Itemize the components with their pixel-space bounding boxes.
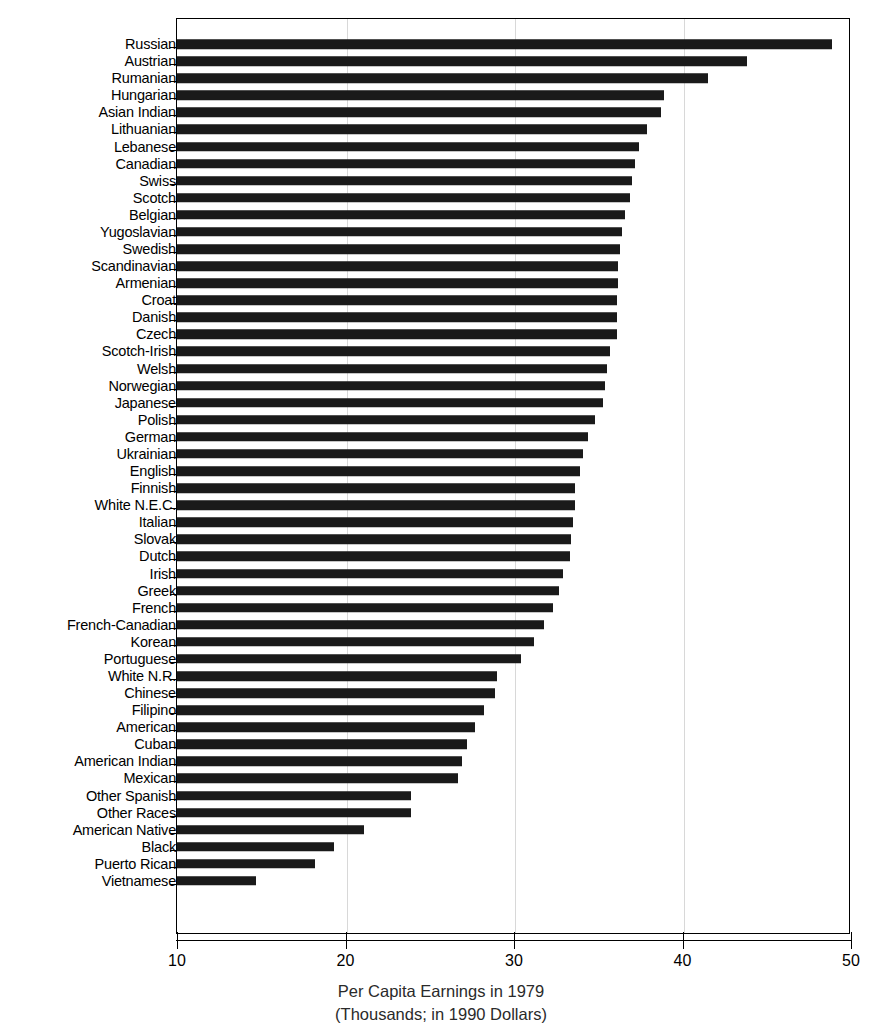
bar-row: English [0, 463, 882, 480]
bar-row-label: Scandinavian [91, 259, 176, 274]
bar-row-tick [170, 474, 177, 475]
bar-row-tick [170, 594, 177, 595]
bar-row: American [0, 719, 882, 736]
bar-row-tick [170, 201, 177, 202]
bar [177, 108, 661, 118]
bar [177, 774, 458, 784]
bar-row: Asian Indian [0, 104, 882, 121]
bar [177, 688, 495, 698]
x-tick [177, 940, 178, 949]
bar [177, 740, 467, 750]
bar-row-tick [170, 508, 177, 509]
bar [177, 603, 553, 613]
bar-row-tick [170, 389, 177, 390]
bar-row: Dutch [0, 548, 882, 565]
bar-row: Black [0, 838, 882, 855]
bar-row: Czech [0, 326, 882, 343]
bar [177, 791, 411, 801]
bar-row: Cuban [0, 736, 882, 753]
bar-row: Swiss [0, 172, 882, 189]
bar-row: Other Spanish [0, 787, 882, 804]
bar-row-tick [170, 850, 177, 851]
bar-row-tick [170, 132, 177, 133]
bar [177, 466, 580, 476]
bar-row-label: Russian [125, 37, 176, 52]
bar-row-tick [170, 679, 177, 680]
bar-row-label: Yugoslavian [100, 225, 176, 240]
bar [177, 295, 617, 305]
bar-row: Norwegian [0, 377, 882, 394]
bar-row: Armenian [0, 275, 882, 292]
bar [177, 364, 607, 374]
bar-row-label: Puerto Rican [95, 857, 176, 872]
bar-row-label: Czech [136, 327, 176, 342]
bar-row: Welsh [0, 360, 882, 377]
bar [177, 859, 315, 869]
x-axis-caption-line-1: Per Capita Earnings in 1979 [0, 980, 882, 1003]
bar-row-label: Greek [138, 583, 177, 598]
bar-row-tick [170, 747, 177, 748]
bar-row-label: Finnish [131, 481, 176, 496]
bar [177, 330, 617, 340]
bar-row: Swedish [0, 240, 882, 257]
bar-rows: RussianAustrianRumanianHungarianAsian In… [0, 18, 882, 934]
bar-row: American Indian [0, 753, 882, 770]
bar-row-label: White N.R. [108, 669, 176, 684]
bar [177, 210, 625, 220]
bar-row-label: Croat [142, 293, 176, 308]
bar [177, 876, 256, 886]
bar-row-tick [170, 867, 177, 868]
bar [177, 381, 605, 391]
bar-chart-figure: RussianAustrianRumanianHungarianAsian In… [0, 0, 882, 1025]
bar-row-label: Austrian [124, 54, 176, 69]
bar [177, 73, 708, 83]
bar-row: Canadian [0, 155, 882, 172]
bar-row-tick [170, 611, 177, 612]
bar-row-tick [170, 696, 177, 697]
bar-row-label: Armenian [116, 276, 176, 291]
bar-row-tick [170, 286, 177, 287]
bar-row-label: Mexican [123, 771, 176, 786]
bar-row: Chinese [0, 685, 882, 702]
bar-row: Filipino [0, 702, 882, 719]
bar-row-label: Black [142, 840, 176, 855]
bar-row: Other Races [0, 804, 882, 821]
bar [177, 432, 588, 442]
bar-row-label: Belgian [129, 208, 176, 223]
bar-row: Ukrainian [0, 445, 882, 462]
bar-row-tick [170, 115, 177, 116]
bar-row-tick [170, 781, 177, 782]
bar-row: White N.E.C. [0, 497, 882, 514]
bar-row: Scotch [0, 189, 882, 206]
bar-row-label: Other Spanish [86, 788, 176, 803]
x-axis-caption: Per Capita Earnings in 1979 (Thousands; … [0, 980, 882, 1025]
bar-row-label: Other Races [97, 805, 176, 820]
bar-row-tick [170, 884, 177, 885]
bar-row-label: Cuban [134, 737, 176, 752]
bar-row-tick [170, 252, 177, 253]
bar [177, 808, 411, 818]
x-tick-label: 50 [842, 952, 860, 970]
bar-row: Rumanian [0, 70, 882, 87]
bar-row-label: White N.E.C. [95, 498, 176, 513]
bar-row: Polish [0, 411, 882, 428]
x-tick [851, 940, 852, 949]
bar-row-label: Irish [150, 566, 176, 581]
bar [177, 91, 664, 101]
bar [177, 193, 630, 203]
bar-row: Austrian [0, 53, 882, 70]
bar [177, 125, 647, 135]
bar-row-tick [170, 64, 177, 65]
bar-row: Scotch-Irish [0, 343, 882, 360]
bar-row: Mexican [0, 770, 882, 787]
bar [177, 449, 583, 459]
bar-row: American Native [0, 821, 882, 838]
bar-row-tick [170, 354, 177, 355]
bar [177, 261, 618, 271]
bar-row-tick [170, 662, 177, 663]
bar-row-tick [170, 628, 177, 629]
bar-row-label: English [130, 464, 176, 479]
x-tick [683, 940, 684, 949]
bar-row-label: Slovak [134, 532, 176, 547]
x-tick [514, 940, 515, 949]
